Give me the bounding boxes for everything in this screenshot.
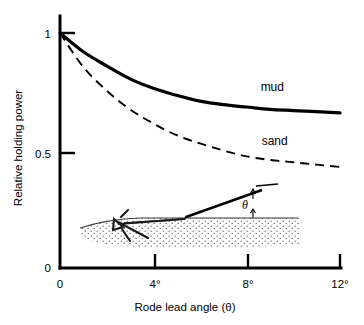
x-tick-label-4: 4° (150, 278, 161, 290)
y-tick-label-1: 1 (45, 28, 51, 40)
y-axis-title-text: Relative holding power (12, 90, 24, 207)
chart-canvas: Relative holding power 1 0.5 0 0 4° 8° 1… (0, 0, 364, 325)
anchor-rode-diagram: θ (78, 184, 304, 248)
x-tick-label-8: 8° (243, 278, 254, 290)
series-labels: mud sand (261, 80, 288, 148)
series-curve-mud (60, 33, 340, 113)
y-axis-title: Relative holding power (12, 90, 24, 207)
y-axis-ticks: 1 0.5 0 (35, 28, 75, 274)
x-axis-title: Rode lead angle (θ) (134, 301, 235, 313)
theta-symbol: θ (242, 198, 248, 212)
anchor-stock (121, 210, 128, 217)
sand-label: sand (262, 134, 288, 148)
y-tick-label-0: 0 (45, 262, 51, 274)
chart-figure: Relative holding power 1 0.5 0 0 4° 8° 1… (0, 0, 364, 325)
rode-upper (256, 184, 278, 186)
x-axis-title-text: Rode lead angle (θ) (134, 301, 235, 313)
mud-label: mud (261, 80, 284, 94)
x-tick-label-0: 0 (57, 278, 63, 290)
y-tick-label-0-5: 0.5 (35, 148, 51, 160)
x-tick-label-12: 12° (331, 278, 348, 290)
x-axis-ticks: 0 4° 8° 12° (57, 254, 349, 290)
